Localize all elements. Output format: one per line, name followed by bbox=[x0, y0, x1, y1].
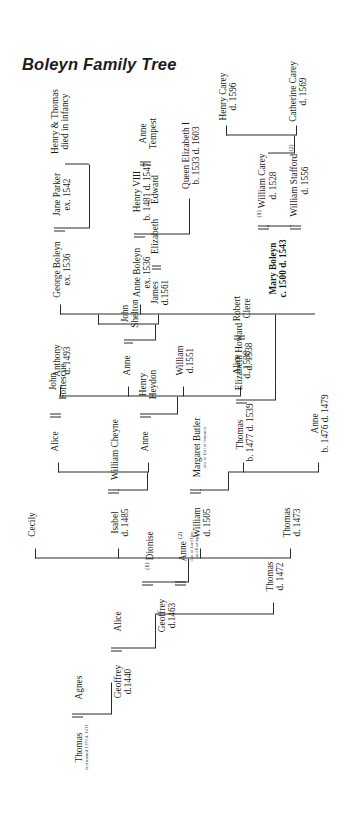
person-dates: d. 1569 bbox=[298, 57, 308, 125]
connector-h bbox=[98, 314, 99, 324]
person-name: Cecily bbox=[27, 501, 37, 547]
connector-h bbox=[183, 386, 184, 396]
person-thomas-1473: Thomas d. 1473 bbox=[282, 497, 303, 547]
person-dates: ex. 1536 bbox=[62, 235, 72, 303]
connector-h bbox=[318, 462, 319, 472]
sibling-bus bbox=[226, 134, 296, 135]
connector-h bbox=[226, 125, 227, 135]
person-dates: d. 1472 bbox=[275, 551, 285, 601]
connector-h bbox=[188, 558, 189, 582]
person-dates: ex. 1536 bbox=[142, 241, 152, 303]
person-james-1561: James d.1561 bbox=[150, 271, 171, 313]
connector-v bbox=[145, 233, 189, 234]
person-elizabeth-howard: Elizabeth Howard d. 1538 bbox=[234, 317, 255, 395]
person-name: Jane Parker bbox=[52, 165, 62, 223]
connector-h bbox=[228, 472, 229, 490]
connector-h bbox=[155, 614, 156, 648]
person-margaret-butler: Margaret Butler dau. of Earl of Ormonde bbox=[192, 409, 208, 485]
person-henry-heydon: Henry Heydon bbox=[138, 359, 159, 409]
person-thomas-boleyn-1: Thomas first named 1370 d. 1411 bbox=[74, 721, 90, 773]
person-dates: d.1551 bbox=[185, 335, 195, 385]
person-dates: c. 1500 d. 1543 bbox=[278, 233, 288, 303]
person-george-boleyn: George Boleyn ex. 1536 bbox=[52, 235, 73, 303]
connector-v bbox=[118, 489, 147, 490]
person-henry-and-thomas: Henry & Thomas died in infancy bbox=[50, 81, 71, 161]
person-note: dau. of Earl of Ormonde bbox=[202, 409, 207, 485]
person-dates: d.1440 bbox=[123, 655, 133, 707]
person-dates: d. 1556 bbox=[300, 139, 310, 221]
connector-h bbox=[111, 682, 112, 714]
person-thomas-1472: Thomas d. 1472 bbox=[265, 551, 286, 601]
connector-v bbox=[268, 152, 294, 153]
connector-h bbox=[275, 382, 276, 400]
person-name: Margaret Butler bbox=[192, 409, 202, 485]
connector-h bbox=[177, 396, 178, 414]
person-dates: d. 1596 bbox=[228, 67, 238, 125]
person-anthony-1493: Anthony d. 1493 bbox=[52, 335, 73, 385]
person-dates: b. 1476 d. 1479 bbox=[320, 385, 330, 461]
person-name: Geoffrey bbox=[113, 655, 123, 707]
person-dates: d. 1528 bbox=[268, 149, 278, 221]
person-alice: Alice bbox=[113, 599, 123, 643]
connector-h bbox=[200, 548, 201, 558]
person-agnes: Agnes bbox=[74, 665, 84, 709]
connector-h bbox=[147, 472, 148, 490]
connector-h bbox=[294, 135, 295, 153]
connector-h bbox=[275, 314, 276, 382]
marriage-order: (2) bbox=[176, 531, 183, 538]
connector-v bbox=[151, 413, 177, 414]
connector-v bbox=[200, 489, 228, 490]
connector-h bbox=[89, 164, 90, 228]
person-name: William bbox=[175, 335, 185, 385]
person-name: Elizabeth Howard bbox=[234, 317, 244, 395]
person-name: George Boleyn bbox=[52, 235, 62, 303]
person-anne-tempest: Anne Tempest bbox=[138, 109, 159, 157]
person-william-1505: William d. 1505 bbox=[192, 497, 213, 547]
person-name: Agnes bbox=[74, 665, 84, 709]
connector-v bbox=[267, 225, 291, 226]
person-name: Thomas bbox=[265, 551, 275, 601]
connector-h bbox=[35, 548, 36, 558]
person-note: died in infancy bbox=[60, 81, 70, 161]
person-name: Anne bbox=[140, 421, 150, 461]
sibling-bus bbox=[60, 395, 240, 396]
connector-h bbox=[158, 314, 159, 324]
sibling-bus bbox=[228, 471, 318, 472]
connector-h bbox=[155, 324, 156, 340]
connector-h bbox=[273, 602, 274, 614]
person-dates: d. 1505 bbox=[202, 497, 212, 547]
connector-h bbox=[296, 125, 297, 135]
person-name: Henry VIII bbox=[132, 153, 142, 229]
connector-v bbox=[133, 339, 155, 340]
connector-v bbox=[247, 399, 275, 400]
person-name: Catherine Carey bbox=[288, 57, 298, 125]
connector-h bbox=[118, 548, 119, 558]
connector-h bbox=[60, 386, 61, 396]
person-william-carey: (1) William Carey d. 1528 bbox=[256, 149, 278, 221]
person-name: Thomas bbox=[282, 497, 292, 547]
connector-h bbox=[58, 462, 59, 472]
connector-h bbox=[148, 462, 149, 472]
sibling-bus bbox=[35, 557, 290, 558]
person-name-text: William Carey bbox=[257, 153, 267, 208]
person-name: Mary Boleyn bbox=[268, 233, 278, 303]
marriage-order: (2) bbox=[287, 144, 294, 151]
person-name: Anne (2) bbox=[177, 515, 189, 577]
person-dates: d. 1538 bbox=[244, 317, 254, 395]
person-name: (1) William Carey bbox=[256, 149, 268, 221]
person-name: Henry bbox=[138, 359, 148, 409]
person-name: Henry Carey bbox=[218, 67, 228, 125]
person-name: Isabel bbox=[110, 497, 120, 547]
connector-h bbox=[189, 198, 190, 234]
connector-v bbox=[122, 647, 155, 648]
person-cecily: Cecily bbox=[27, 501, 37, 547]
person-name-text: William Stafford bbox=[289, 153, 299, 216]
person-william-stafford: William Stafford (2) d. 1556 bbox=[288, 139, 310, 221]
sibling-bus bbox=[60, 313, 315, 314]
connector-v bbox=[155, 613, 273, 614]
person-name: William Cheyne bbox=[110, 413, 120, 485]
person-anne-boleyn: Anne Boleyn ex. 1536 bbox=[132, 241, 153, 303]
person-dates: d. 1493 bbox=[62, 335, 72, 385]
person-name: Thomas bbox=[235, 407, 245, 461]
person-queen-elizabeth-i: Queen Elizabeth I b. 1533 d. 1603 bbox=[181, 113, 202, 197]
